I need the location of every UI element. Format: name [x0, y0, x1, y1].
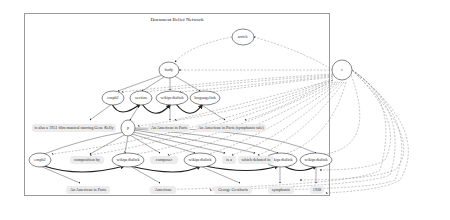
- node-label: body: [165, 67, 174, 72]
- node-body[interactable]: body: [159, 62, 179, 78]
- svg-text:which debuted in: which debuted in: [242, 157, 272, 162]
- svg-text:1928: 1928: [313, 187, 321, 192]
- node-label: languagelink: [194, 95, 217, 100]
- svg-text:symphonic: symphonic: [272, 187, 291, 192]
- leaf-composition-by: composition by: [70, 156, 104, 164]
- node-emph2-b[interactable]: emph2: [29, 153, 51, 167]
- edge-r-wc: [205, 82, 340, 155]
- edge-r-emph2: [122, 74, 333, 92]
- node-section[interactable]: section: [130, 91, 152, 105]
- node-wikipedialink-c[interactable]: wikipedialink: [184, 153, 216, 167]
- svg-text:George Gershwin: George Gershwin: [218, 187, 248, 192]
- node-wikipedialink-a[interactable]: wikipedialink: [156, 91, 188, 105]
- svg-text:composition by: composition by: [74, 157, 101, 162]
- edge-r-languagelink: [210, 77, 333, 92]
- leaf-american: American: [150, 186, 176, 194]
- svg-text:An American in Paris: An American in Paris: [151, 125, 188, 130]
- node-emph2[interactable]: emph2: [102, 91, 124, 105]
- edge-body-emph2: [118, 74, 165, 91]
- edge-r-loop4: [326, 70, 408, 193]
- leaf-george-gershwin: George Gershwin: [214, 186, 252, 194]
- seq-emph2b-wb: [44, 166, 124, 172]
- node-wikipedialink-e[interactable]: wikipedialink: [300, 153, 332, 167]
- node-article[interactable]: article: [232, 29, 254, 45]
- edge-p-emph2: [44, 132, 124, 154]
- svg-text:is also a 1951 film musical st: is also a 1951 film musical starring Gen…: [34, 125, 114, 130]
- svg-text:American: American: [155, 187, 172, 192]
- node-wikipedialink-b[interactable]: wikipedialink: [112, 153, 144, 167]
- seq-wb-wc: [130, 166, 200, 172]
- leaf-american-paris-2: An American in Paris: [66, 186, 110, 194]
- node-label: p: [127, 125, 129, 130]
- leaf-is-a: is a: [222, 156, 236, 164]
- svg-text:composer: composer: [156, 157, 173, 162]
- edge-emph2-leaf: [90, 104, 112, 120]
- edge-body-languagelink: [173, 75, 200, 91]
- svg-text:is a: is a: [226, 157, 232, 162]
- node-label: emph2: [107, 95, 118, 100]
- seq-wikilink-languagelink: [176, 104, 202, 113]
- edge-r-loop6: [320, 70, 390, 170]
- edge-article-body: [175, 37, 232, 62]
- edge-p-wb: [125, 135, 128, 153]
- node-r[interactable]: r: [332, 60, 352, 80]
- node-label: emph2: [34, 157, 45, 162]
- node-label: section: [135, 95, 148, 100]
- node-label: article: [238, 34, 249, 39]
- leaf-gene-kelly: is also a 1951 film musical starring Gen…: [32, 124, 116, 132]
- node-label: wikipedialink: [116, 157, 140, 162]
- edge-p-wc: [132, 134, 195, 153]
- leaf-symphonic: symphonic: [268, 186, 294, 194]
- edge-r-article: [254, 37, 333, 70]
- leaf-composer: composer: [150, 156, 178, 164]
- svg-text:An American in Paris (symphoni: An American in Paris (symphonic tale): [198, 125, 264, 130]
- edge-p-isa: [133, 132, 225, 153]
- seq-wc-wd: [205, 166, 278, 171]
- node-label: wikipedialink: [188, 157, 212, 162]
- edge-r-we: [318, 72, 360, 155]
- svg-text:An American in Paris: An American in Paris: [70, 187, 107, 192]
- edge-emph2b-leaf: [40, 166, 80, 183]
- leaf-1928: 1928: [310, 186, 324, 194]
- leaf-american-paris-1: An American in Paris: [148, 124, 190, 132]
- node-languagelink[interactable]: languagelink: [190, 91, 220, 105]
- node-label: wikipedialink: [160, 95, 184, 100]
- leaf-american-paris-symphonic: An American in Paris (symphonic tale): [196, 124, 266, 132]
- node-p[interactable]: p: [121, 120, 135, 136]
- edge-p-comp: [90, 134, 126, 154]
- node-label: wikipedialink: [304, 157, 328, 162]
- belief-network-graph: article body r emph2 section wikipediali…: [0, 0, 450, 220]
- seq-section-wikilink: [142, 104, 170, 113]
- edge-section-p: [130, 104, 140, 120]
- edge-r-debuted: [258, 82, 344, 155]
- leaf-which-debuted-in: which debuted in: [238, 156, 274, 164]
- edge-r-composer: [168, 82, 338, 155]
- edge-wb-leaf: [130, 166, 160, 183]
